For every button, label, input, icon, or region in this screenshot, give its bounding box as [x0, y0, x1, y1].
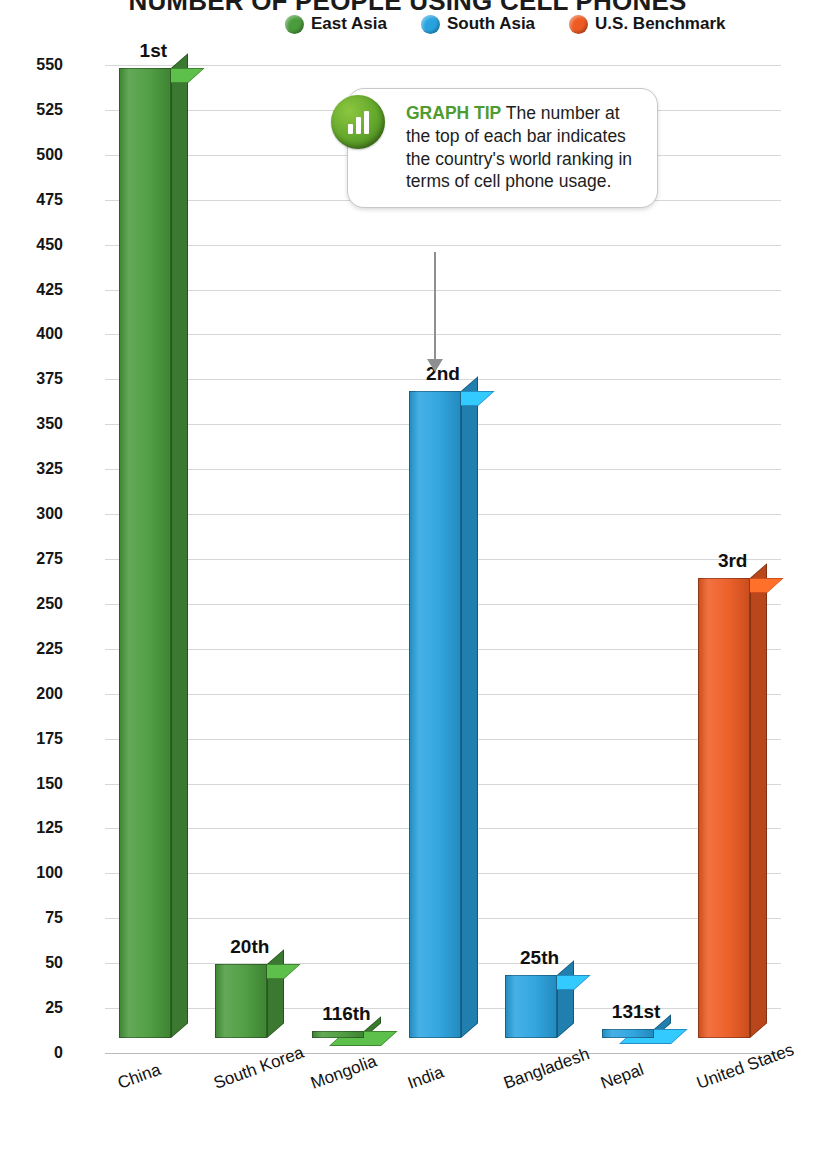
y-axis-tick-label: 475 [0, 191, 63, 209]
y-axis-tick-label: 375 [0, 370, 63, 388]
y-axis-tick-label: 250 [0, 595, 63, 613]
bar-front-face [505, 975, 557, 1038]
y-axis-tick-label: 300 [0, 505, 63, 523]
y-axis-tick-label: 525 [0, 101, 63, 119]
x-axis-label-mongolia: Mongolia [308, 1051, 380, 1093]
chart-legend: East Asia South Asia U.S. Benchmark [285, 14, 725, 34]
y-axis-tick-label: 400 [0, 325, 63, 343]
bar-china[interactable] [119, 68, 188, 1053]
bar-rank-label: 20th [195, 936, 304, 958]
graph-tip-callout: GRAPH TIP The number at the top of each … [347, 88, 658, 208]
y-axis-tick-label: 75 [0, 909, 63, 927]
bar-mongolia[interactable] [312, 1031, 381, 1053]
y-axis-tick-label: 275 [0, 550, 63, 568]
bar-nepal[interactable] [602, 1029, 671, 1053]
bar-front-face [602, 1029, 654, 1038]
gridline [105, 334, 781, 335]
y-axis-tick-label: 450 [0, 236, 63, 254]
y-axis-tick-label: 350 [0, 415, 63, 433]
y-axis-tick-label: 550 [0, 56, 63, 74]
bar-south-korea[interactable] [215, 964, 284, 1053]
bar-bangladesh[interactable] [505, 975, 574, 1053]
plot-area: 5505255004754504254003753503253002752502… [105, 65, 781, 1053]
legend-label-east-asia: East Asia [311, 14, 387, 34]
gridline [105, 245, 781, 246]
bar-rank-label: 2nd [389, 363, 498, 385]
bar-chart-icon [331, 95, 385, 149]
y-axis-tick-label: 25 [0, 999, 63, 1017]
gridline [105, 65, 781, 66]
legend-swatch-south-asia [421, 15, 440, 34]
bar-rank-label: 3rd [678, 550, 787, 572]
y-axis-tick-label: 425 [0, 281, 63, 299]
y-axis-tick-label: 200 [0, 685, 63, 703]
legend-swatch-us-benchmark [569, 15, 588, 34]
bar-side-face [267, 950, 284, 1038]
bar-side-face [557, 960, 574, 1038]
y-axis-tick-label: 125 [0, 819, 63, 837]
x-axis-label-china: China [115, 1060, 164, 1094]
x-axis-label-nepal: Nepal [598, 1060, 647, 1094]
legend-label-us-benchmark: U.S. Benchmark [595, 14, 725, 34]
y-axis-tick-label: 225 [0, 640, 63, 658]
y-axis-tick-label: 150 [0, 775, 63, 793]
bar-side-face [461, 377, 478, 1038]
legend-item-south-asia: South Asia [421, 14, 535, 34]
y-axis-tick-label: 325 [0, 460, 63, 478]
bar-rank-label: 116th [292, 1003, 401, 1025]
gridline [105, 1053, 781, 1054]
bar-front-face [312, 1031, 364, 1038]
y-axis-tick-label: 175 [0, 730, 63, 748]
legend-swatch-east-asia [285, 15, 304, 34]
legend-label-south-asia: South Asia [447, 14, 535, 34]
bar-india[interactable] [409, 391, 478, 1053]
bar-side-face [171, 53, 188, 1038]
graph-tip-heading: GRAPH TIP [406, 103, 501, 123]
y-axis-tick-label: 50 [0, 954, 63, 972]
tip-pointer-arrow [434, 252, 436, 360]
bar-united-states[interactable] [698, 578, 767, 1053]
y-axis-tick-label: 100 [0, 864, 63, 882]
bar-side-face [750, 563, 767, 1038]
gridline [105, 290, 781, 291]
legend-item-east-asia: East Asia [285, 14, 387, 34]
bar-front-face [119, 68, 171, 1038]
bar-rank-label: 1st [99, 40, 208, 62]
bar-rank-label: 25th [485, 947, 594, 969]
y-axis-tick-label: 500 [0, 146, 63, 164]
x-axis-label-india: India [405, 1062, 446, 1093]
bar-rank-label: 131st [582, 1001, 691, 1023]
legend-item-us-benchmark: U.S. Benchmark [569, 14, 725, 34]
bar-front-face [215, 964, 267, 1038]
bar-front-face [409, 391, 461, 1038]
y-axis-tick-label: 0 [0, 1044, 63, 1062]
bar-front-face [698, 578, 750, 1038]
